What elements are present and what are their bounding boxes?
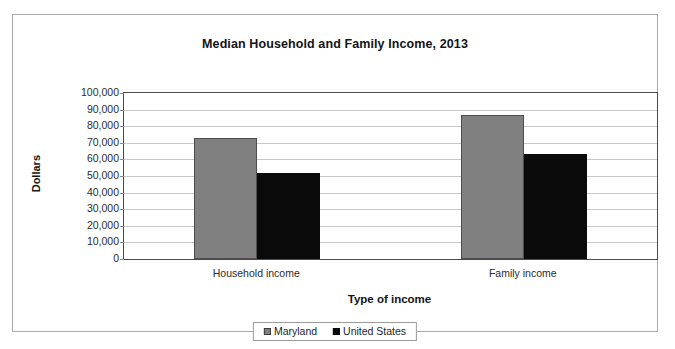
bar-household-income-maryland — [194, 138, 257, 259]
y-axis-tick-label: 70,000 — [57, 137, 119, 147]
y-axis-tickmark — [120, 176, 124, 177]
y-axis-tickmark — [120, 242, 124, 243]
y-axis-tick-label: 40,000 — [57, 187, 119, 197]
y-axis-title: Dollars — [30, 155, 50, 192]
legend-entry: United States — [333, 325, 406, 337]
y-axis-tickmark — [120, 126, 124, 127]
y-axis-tick-label: 10,000 — [57, 236, 119, 246]
legend-entry: Maryland — [264, 325, 317, 337]
gray-square-icon — [264, 328, 271, 335]
x-axis-category-label: Family income — [489, 267, 557, 279]
chart-legend: MarylandUnited States — [253, 322, 417, 341]
y-axis-tickmark — [120, 259, 124, 260]
plot-area — [123, 92, 658, 260]
y-axis-tick-label: 0 — [57, 253, 119, 263]
y-axis-tick-label: 60,000 — [57, 153, 119, 163]
gridline — [124, 126, 657, 127]
legend-label: Maryland — [274, 325, 317, 337]
bar-family-income-maryland — [461, 115, 524, 259]
y-axis-tick-label: 50,000 — [57, 170, 119, 180]
x-axis-category-label: Household income — [213, 267, 300, 279]
chart-frame: Median Household and Family Income, 2013… — [12, 14, 658, 332]
x-axis-category-labels: Household incomeFamily income — [123, 267, 656, 283]
gridline — [124, 110, 657, 111]
y-axis-tickmark — [120, 93, 124, 94]
y-axis-tick-label: 100,000 — [57, 87, 119, 97]
y-axis-tick-label: 90,000 — [57, 104, 119, 114]
bar-family-income-united-states — [524, 154, 587, 259]
y-axis-tickmark — [120, 193, 124, 194]
chart-title: Median Household and Family Income, 2013 — [13, 37, 657, 51]
y-axis-tickmark — [120, 159, 124, 160]
y-axis-tick-label: 30,000 — [57, 203, 119, 213]
y-axis-tick-label: 20,000 — [57, 220, 119, 230]
black-square-icon — [333, 328, 340, 335]
y-axis-tickmark — [120, 209, 124, 210]
y-axis-tickmark — [120, 110, 124, 111]
bar-household-income-united-states — [257, 173, 320, 259]
legend-label: United States — [343, 325, 406, 337]
x-axis-title: Type of income — [123, 293, 656, 305]
y-axis-tick-labels: 010,00020,00030,00040,00050,00060,00070,… — [57, 87, 119, 263]
y-axis-tickmark — [120, 143, 124, 144]
y-axis-tick-label: 80,000 — [57, 120, 119, 130]
y-axis-tickmark — [120, 226, 124, 227]
